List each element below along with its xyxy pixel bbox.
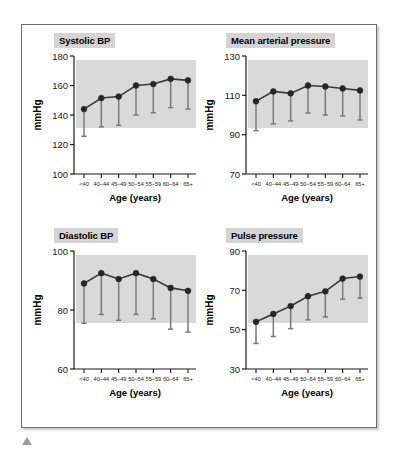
svg-text:Age (years): Age (years) xyxy=(281,387,333,398)
svg-text:65+: 65+ xyxy=(355,376,365,382)
svg-text:55–59: 55–59 xyxy=(146,376,162,382)
svg-text:60–64: 60–64 xyxy=(163,181,179,187)
svg-text:50–54: 50–54 xyxy=(128,181,144,187)
svg-text:120: 120 xyxy=(52,139,68,150)
svg-text:160: 160 xyxy=(52,80,68,91)
svg-text:<40: <40 xyxy=(79,376,89,382)
svg-text:60–64: 60–64 xyxy=(335,376,351,382)
svg-text:45–49: 45–49 xyxy=(283,376,299,382)
svg-text:80: 80 xyxy=(57,305,68,316)
svg-text:45–49: 45–49 xyxy=(283,181,299,187)
svg-text:mmHg: mmHg xyxy=(204,294,215,325)
svg-text:70: 70 xyxy=(229,169,240,180)
chart-svg-mean-arterial-pressure: 7090110130mmHg<4040–4445–4950–5455–5960–… xyxy=(202,50,372,225)
plot-mean-arterial-pressure: 7090110130mmHg<4040–4445–4950–5455–5960–… xyxy=(202,50,372,225)
panel-systolic-bp: Systolic BP 100120140160180mmHg<4040–444… xyxy=(30,33,200,225)
svg-text:140: 140 xyxy=(52,110,68,121)
figure-frame: Systolic BP 100120140160180mmHg<4040–444… xyxy=(21,24,377,428)
plot-pulse-pressure: 30507090mmHg<4040–4445–4950–5455–5960–64… xyxy=(202,245,372,420)
svg-text:50: 50 xyxy=(229,324,240,335)
svg-text:90: 90 xyxy=(229,246,240,257)
panel-title-systolic-bp: Systolic BP xyxy=(54,33,115,48)
svg-text:55–59: 55–59 xyxy=(318,181,334,187)
chart-svg-pulse-pressure: 30507090mmHg<4040–4445–4950–5455–5960–64… xyxy=(202,245,372,420)
svg-text:<40: <40 xyxy=(79,181,89,187)
svg-text:<40: <40 xyxy=(251,376,261,382)
svg-text:60: 60 xyxy=(57,364,68,375)
svg-text:30: 30 xyxy=(229,364,240,375)
svg-text:90: 90 xyxy=(229,129,240,140)
svg-text:70: 70 xyxy=(229,285,240,296)
svg-text:Age (years): Age (years) xyxy=(109,387,161,398)
svg-text:45–49: 45–49 xyxy=(111,181,127,187)
panel-title-mean-arterial-pressure: Mean arterial pressure xyxy=(226,33,335,48)
panel-pulse-pressure: Pulse pressure 30507090mmHg<4040–4445–49… xyxy=(202,228,372,420)
svg-text:180: 180 xyxy=(52,51,68,62)
svg-text:mmHg: mmHg xyxy=(32,294,43,325)
svg-text:55–59: 55–59 xyxy=(318,376,334,382)
svg-text:65+: 65+ xyxy=(183,376,193,382)
svg-text:100: 100 xyxy=(52,246,68,257)
svg-text:mmHg: mmHg xyxy=(32,99,43,130)
svg-text:50–54: 50–54 xyxy=(128,376,144,382)
svg-text:60–64: 60–64 xyxy=(335,181,351,187)
plot-diastolic-bp: 6080100mmHg<4040–4445–4950–5455–5960–646… xyxy=(30,245,200,420)
svg-text:100: 100 xyxy=(52,169,68,180)
svg-text:Age (years): Age (years) xyxy=(109,192,161,203)
svg-text:40–44: 40–44 xyxy=(266,181,282,187)
svg-text:60–64: 60–64 xyxy=(163,376,179,382)
svg-text:mmHg: mmHg xyxy=(204,99,215,130)
panel-mean-arterial-pressure: Mean arterial pressure 7090110130mmHg<40… xyxy=(202,33,372,225)
svg-text:45–49: 45–49 xyxy=(111,376,127,382)
svg-text:50–54: 50–54 xyxy=(300,181,316,187)
panel-diastolic-bp: Diastolic BP 6080100mmHg<4040–4445–4950–… xyxy=(30,228,200,420)
chart-svg-systolic-bp: 100120140160180mmHg<4040–4445–4950–5455–… xyxy=(30,50,200,225)
svg-text:55–59: 55–59 xyxy=(146,181,162,187)
svg-text:40–44: 40–44 xyxy=(94,376,110,382)
svg-text:110: 110 xyxy=(225,90,240,101)
plot-systolic-bp: 100120140160180mmHg<4040–4445–4950–5455–… xyxy=(30,50,200,225)
triangle-marker-icon xyxy=(22,437,32,445)
svg-text:130: 130 xyxy=(224,51,240,62)
svg-text:40–44: 40–44 xyxy=(94,181,110,187)
chart-svg-diastolic-bp: 6080100mmHg<4040–4445–4950–5455–5960–646… xyxy=(30,245,200,420)
svg-text:50–54: 50–54 xyxy=(300,376,316,382)
panel-title-diastolic-bp: Diastolic BP xyxy=(54,228,118,243)
panel-title-pulse-pressure: Pulse pressure xyxy=(226,228,303,243)
svg-text:65+: 65+ xyxy=(183,181,193,187)
svg-text:Age (years): Age (years) xyxy=(281,192,333,203)
svg-text:40–44: 40–44 xyxy=(266,376,282,382)
svg-text:<40: <40 xyxy=(251,181,261,187)
svg-text:65+: 65+ xyxy=(355,181,365,187)
